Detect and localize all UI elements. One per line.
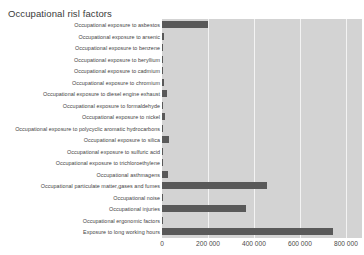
bar-row: Occupational exposure to nickel [0, 111, 364, 123]
bar-row: Occupational exposure to chromium [0, 77, 364, 89]
x-tick-label: 200 000 [196, 240, 220, 247]
bar [162, 125, 163, 132]
bar [162, 171, 168, 178]
bar [162, 148, 163, 155]
bar-row: Occupational exposure to beryllium [0, 54, 364, 66]
cut-off-header-text: ——— ———— —— ——— ———— ——— —— ——— ——— ———— [4, 0, 280, 3]
bar [162, 194, 163, 201]
bar [162, 136, 169, 143]
category-label: Occupational exposure to cadmium [74, 68, 160, 74]
category-label: Occupational injuries [109, 206, 160, 212]
category-label: Exposure to long working hours [83, 229, 160, 235]
bar [162, 79, 164, 86]
category-label: Occupational particulate matter,gases an… [41, 183, 160, 189]
bar-row: Occupational injuries [0, 203, 364, 215]
bar [162, 217, 163, 224]
category-label: Occupational exposure to silica [84, 137, 160, 143]
bar-row: Occupational particulate matter,gases an… [0, 180, 364, 192]
bar-row: Exposure to long working hours [0, 226, 364, 238]
bar [162, 33, 164, 40]
category-label: Occupational exposure to diesel engine e… [43, 91, 160, 97]
bar [162, 182, 267, 189]
bar-row: Occupational exposure to diesel engine e… [0, 88, 364, 100]
bar-row: Occupational exposure to cadmium [0, 65, 364, 77]
bar [162, 102, 163, 109]
bar [162, 21, 208, 28]
bar-row: Occupational exposure to arsenic [0, 31, 364, 43]
cut-off-header-strip: ——— ———— —— ——— ———— ——— —— ——— ——— ———— [0, 0, 364, 7]
category-label: Occupational exposure to sulfuric acid [67, 149, 160, 155]
bar-row: Occupational exposure to silica [0, 134, 364, 146]
bar [162, 44, 163, 51]
x-tick-label: 800 000 [334, 240, 358, 247]
bar-row: Occupational exposure to polycyclic arom… [0, 123, 364, 135]
category-label: Occupational exposure to asbestos [74, 22, 160, 28]
category-label: Occupational exposure to formaldehyde [63, 103, 160, 109]
bar [162, 67, 163, 74]
chart-area: Occupational exposure to asbestosOccupat… [0, 19, 364, 238]
bar [162, 90, 167, 97]
category-label: Occupational exposure to benzene [75, 45, 160, 51]
category-label: Occupational exposure to beryllium [74, 57, 160, 63]
category-label: Occupational exposure to polycyclic arom… [15, 126, 160, 132]
category-label: Occupational exposure to arsenic [78, 34, 160, 40]
bar-row: Occupational asthmagens [0, 169, 364, 181]
category-label: Occupational ergonomic factors [83, 218, 160, 224]
x-tick-label: 600 000 [288, 240, 312, 247]
x-tick-label: 400 000 [242, 240, 266, 247]
bar [162, 228, 333, 235]
category-label: Occupational exposure to trichloroethyle… [56, 160, 160, 166]
category-label: Occupational exposure to chromium [72, 80, 160, 86]
chart-title: Occupational risl factors [8, 8, 112, 19]
bar-row: Occupational exposure to asbestos [0, 19, 364, 31]
bar [162, 56, 163, 63]
category-label: Occupational noise [113, 195, 160, 201]
bar-row: Occupational noise [0, 192, 364, 204]
x-tick-label: 0 [160, 240, 164, 247]
bar-row: Occupational exposure to sulfuric acid [0, 146, 364, 158]
bar [162, 159, 163, 166]
bar [162, 205, 246, 212]
bar-row: Occupational ergonomic factors [0, 215, 364, 227]
bar [162, 113, 165, 120]
category-label: Occupational exposure to nickel [82, 114, 160, 120]
bar-row: Occupational exposure to formaldehyde [0, 100, 364, 112]
bar-row: Occupational exposure to trichloroethyle… [0, 157, 364, 169]
x-axis-tick-labels: 0200 000400 000600 000800 000 [0, 240, 364, 254]
category-label: Occupational asthmagens [97, 172, 160, 178]
bar-row: Occupational exposure to benzene [0, 42, 364, 54]
